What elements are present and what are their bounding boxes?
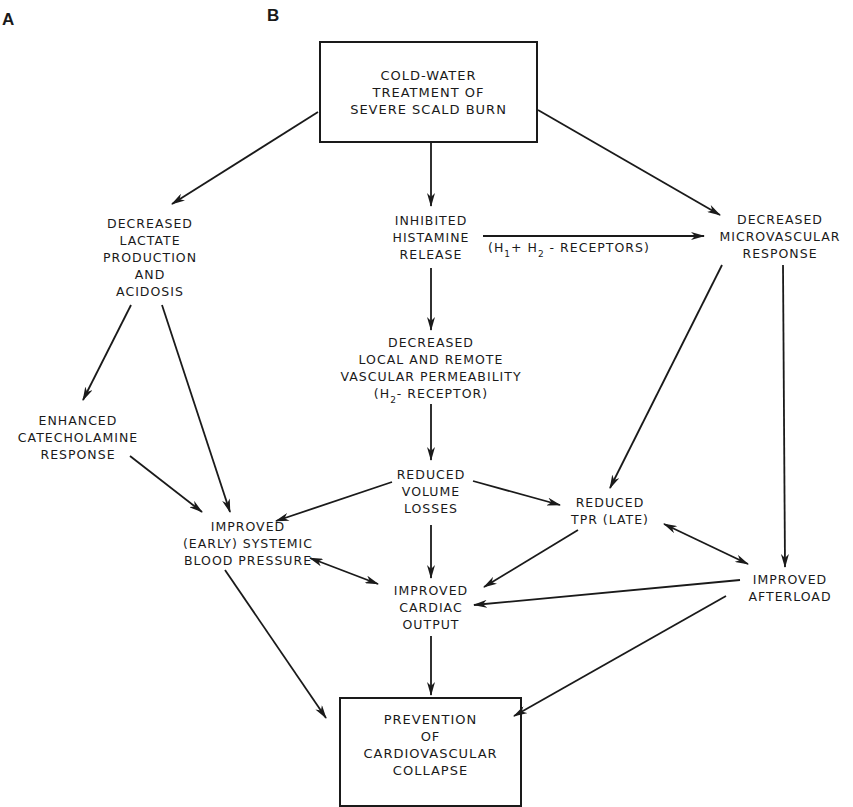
start-box: COLD-WATER TREATMENT OF SEVERE SCALD BUR… (319, 41, 538, 143)
cardiac-line-1: IMPROVED (381, 582, 481, 599)
afterload-line-1: IMPROVED (740, 571, 840, 588)
node-blood-pressure: IMPROVED (EARLY) SYSTEMIC BLOOD PRESSURE (178, 518, 318, 569)
tpr-line-1: REDUCED (555, 494, 665, 511)
histamine-line-3: RELEASE (371, 246, 491, 263)
catecholamine-line-1: ENHANCED (2, 412, 154, 429)
cardiac-line-2: CARDIAC (381, 599, 481, 616)
edge-microvascular-tpr (610, 265, 722, 488)
permeability-line-2: LOCAL AND REMOTE (316, 351, 546, 368)
lactate-line-3: PRODUCTION (60, 249, 240, 266)
lactate-line-4: AND (60, 266, 240, 283)
lactate-line-5: ACIDOSIS (60, 283, 240, 300)
receptors-prefix: (H (488, 240, 504, 255)
receptors-sub1: 1 (504, 249, 511, 259)
volume-line-2: VOLUME (386, 483, 476, 500)
node-histamine: INHIBITED HISTAMINE RELEASE (371, 212, 491, 263)
bp-line-1: IMPROVED (178, 518, 318, 535)
edge-microvascular-afterload (783, 265, 785, 567)
receptors-plus: + H (511, 240, 538, 255)
catecholamine-line-2: CATECHOLAMINE (2, 429, 154, 446)
edge-catecholamine-bp (130, 456, 202, 512)
permeability-receptor: (H2- RECEPTOR) (316, 385, 546, 404)
end-line-1: PREVENTION (384, 711, 478, 728)
volume-line-3: LOSSES (386, 500, 476, 517)
permeability-receptor-sub: 2 (390, 395, 397, 405)
edge-volume-bp (276, 482, 392, 521)
permeability-line-3: VASCULAR PERMEABILITY (316, 368, 546, 385)
catecholamine-line-3: RESPONSE (2, 446, 154, 463)
edge-bp-end (225, 570, 326, 718)
edge-bp-cardiac (310, 558, 378, 584)
permeability-line-1: DECREASED (316, 334, 546, 351)
permeability-receptor-suffix: - RECEPTOR) (397, 386, 488, 401)
start-line-3: SEVERE SCALD BURN (350, 101, 507, 118)
afterload-line-2: AFTERLOAD (740, 588, 840, 605)
start-line-2: TREATMENT OF (373, 84, 485, 101)
node-volume: REDUCED VOLUME LOSSES (386, 466, 476, 517)
histamine-line-2: HISTAMINE (371, 229, 491, 246)
end-line-3: CARDIOVASCULAR (363, 745, 497, 762)
lactate-line-1: DECREASED (60, 215, 240, 232)
microvascular-line-1: DECREASED (705, 211, 853, 228)
bp-line-2: (EARLY) SYSTEMIC (178, 535, 318, 552)
node-catecholamine: ENHANCED CATECHOLAMINE RESPONSE (2, 412, 154, 463)
microvascular-line-2: MICROVASCULAR (705, 228, 853, 245)
node-microvascular: DECREASED MICROVASCULAR RESPONSE (705, 211, 853, 262)
edge-start-microvascular (538, 110, 720, 215)
node-permeability: DECREASED LOCAL AND REMOTE VASCULAR PERM… (316, 334, 546, 404)
receptors-sub2: 2 (538, 249, 545, 259)
edge-volume-tpr (473, 481, 560, 505)
edge-afterload-end (514, 596, 726, 716)
cardiac-line-3: OUTPUT (381, 616, 481, 633)
tpr-line-2: TPR (LATE) (555, 511, 665, 528)
volume-line-1: REDUCED (386, 466, 476, 483)
edge-afterload-cardiac (474, 580, 740, 605)
node-afterload: IMPROVED AFTERLOAD (740, 571, 840, 605)
permeability-receptor-prefix: (H (374, 386, 390, 401)
node-lactate: DECREASED LACTATE PRODUCTION AND ACIDOSI… (60, 215, 240, 300)
microvascular-line-3: RESPONSE (705, 245, 853, 262)
receptors-suffix: - RECEPTORS) (545, 240, 650, 255)
node-cardiac-output: IMPROVED CARDIAC OUTPUT (381, 582, 481, 633)
lactate-line-2: LACTATE (60, 232, 240, 249)
edge-tpr-afterload (664, 524, 748, 564)
node-tpr: REDUCED TPR (LATE) (555, 494, 665, 528)
end-box: PREVENTION OF CARDIOVASCULAR COLLAPSE (339, 697, 522, 807)
end-line-2: OF (421, 728, 441, 745)
edge-tpr-cardiac (484, 530, 578, 587)
bp-line-3: BLOOD PRESSURE (178, 552, 318, 569)
edge-start-lactate (172, 112, 318, 204)
edge-label-receptors: (H1+ H2 - RECEPTORS) (488, 240, 650, 255)
end-line-4: COLLAPSE (393, 762, 468, 779)
start-line-1: COLD-WATER (381, 67, 477, 84)
edge-lactate-catecholamine (83, 305, 131, 400)
histamine-line-1: INHIBITED (371, 212, 491, 229)
edge-lactate-bp (162, 305, 230, 512)
